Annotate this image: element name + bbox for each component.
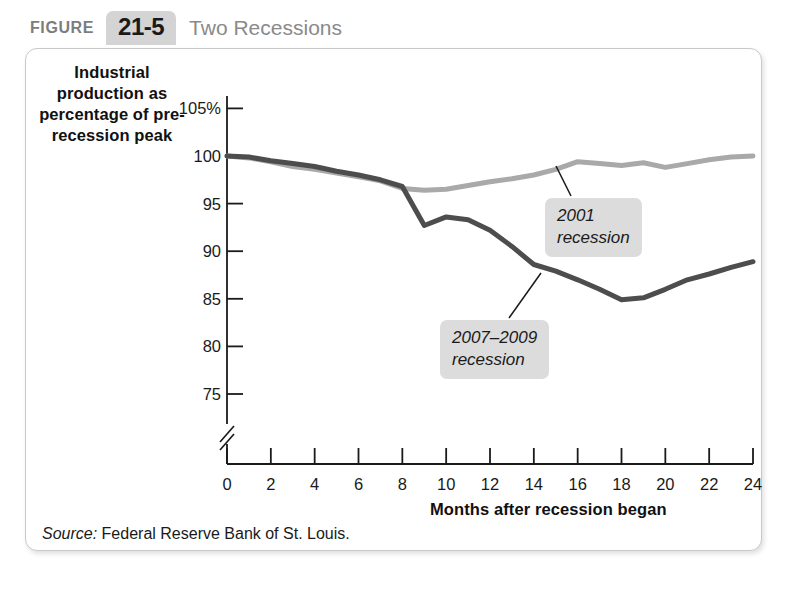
figure-label: FIGURE xyxy=(30,19,106,37)
figure-title: Two Recessions xyxy=(176,14,342,42)
annotation-2007-2009-recession: 2007–2009 recession xyxy=(440,320,549,379)
source-note: Source: Federal Reserve Bank of St. Loui… xyxy=(42,525,350,543)
figure-header: FIGURE 21-5 Two Recessions xyxy=(30,10,342,46)
source-text: Federal Reserve Bank of St. Louis. xyxy=(97,525,350,542)
x-axis-title: Months after recession began xyxy=(430,500,667,519)
y-axis-title: Industrial production as percentage of p… xyxy=(36,62,188,146)
annotation-2001-recession: 2001 recession xyxy=(545,198,642,257)
figure-number-badge: 21-5 xyxy=(106,11,176,45)
source-label: Source: xyxy=(42,525,97,542)
